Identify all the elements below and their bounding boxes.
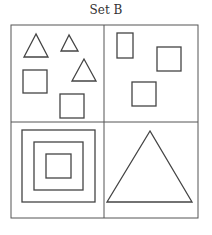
triangle-shape [72,59,96,81]
triangle-shape [61,35,78,51]
shape-grid [0,0,212,235]
panel-top-left [23,34,96,118]
outer-square-shape [22,130,95,202]
inner-square-shape [46,154,71,178]
panel-top-right [117,33,181,106]
square-shape [132,82,156,106]
triangle-shape [24,34,48,57]
square-shape [60,94,84,118]
rectangle-shape [117,33,133,58]
square-shape [23,70,47,93]
large-triangle-shape [107,131,192,202]
square-shape [157,47,181,71]
panel-bottom-right [107,131,192,202]
panel-bottom-left [22,130,95,202]
middle-square-shape [34,142,83,190]
